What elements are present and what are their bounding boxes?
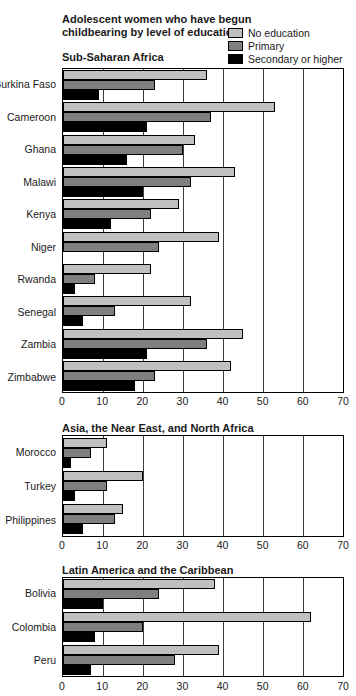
bar-slot (63, 242, 343, 252)
bar-slot (63, 329, 343, 339)
category-label: Morocco (0, 435, 56, 469)
axis-tick-label: 70 (337, 396, 349, 407)
bar-slot (63, 371, 343, 381)
bar-slot (63, 252, 343, 262)
bar-slot (63, 80, 343, 90)
category-label: Peru (0, 644, 56, 677)
bar-slot (63, 655, 343, 665)
bar (63, 209, 151, 219)
bar (63, 219, 111, 229)
bar (63, 599, 103, 609)
bar-slot (63, 612, 343, 622)
axis-tick-label: 40 (217, 681, 229, 692)
category-label: Malawi (0, 166, 56, 199)
bar-group (63, 578, 343, 611)
legend-swatch (228, 41, 243, 51)
category-labels: BoliviaColombiaPeru (0, 577, 56, 677)
x-axis: 010203040506070 (62, 394, 343, 406)
bar (63, 339, 207, 349)
legend-swatch (228, 54, 243, 64)
bar (63, 589, 159, 599)
bar-slot (63, 458, 343, 468)
bar-slot (63, 145, 343, 155)
axis-tick-label: 60 (297, 396, 309, 407)
bar (63, 177, 191, 187)
legend-label: Primary (248, 41, 284, 52)
bar-slot (63, 438, 343, 448)
bar-group (63, 198, 343, 230)
bar-slot (63, 471, 343, 481)
bar-group (63, 101, 343, 133)
bar (63, 316, 83, 326)
bar (63, 329, 243, 339)
x-axis: 010203040506070 (62, 679, 343, 691)
category-label: Ghana (0, 133, 56, 166)
bar-slot (63, 274, 343, 284)
category-label: Colombia (0, 610, 56, 643)
bar-slot (63, 90, 343, 100)
x-axis: 010203040506070 (62, 538, 343, 550)
bar-slot (63, 112, 343, 122)
bar-group (63, 360, 343, 392)
bar (63, 579, 215, 589)
category-label: Kenya (0, 198, 56, 231)
bar (63, 264, 151, 274)
axis-tick-label: 60 (297, 540, 309, 551)
bar (63, 306, 115, 316)
bar (63, 458, 71, 468)
bar-slot (63, 589, 343, 599)
bar-slot (63, 524, 343, 534)
bar (63, 167, 235, 177)
bar-group (63, 69, 343, 101)
axis-tick-label: 10 (96, 681, 108, 692)
bar-slot (63, 167, 343, 177)
bar-slot (63, 284, 343, 294)
bar (63, 232, 219, 242)
bar-rows (63, 436, 343, 536)
bar-rows (63, 69, 343, 392)
bar (63, 361, 231, 371)
bar-rows (63, 578, 343, 676)
axis-tick-label: 0 (59, 540, 65, 551)
axis-tick-label: 30 (177, 396, 189, 407)
category-label: Niger (0, 231, 56, 264)
bar (63, 242, 159, 252)
bar (63, 90, 99, 100)
bar-slot (63, 135, 343, 145)
bar (63, 612, 311, 622)
category-labels: Burkina FasoCameroonGhanaMalawiKenyaNige… (0, 68, 56, 393)
bar (63, 645, 219, 655)
bar (63, 70, 207, 80)
bar (63, 514, 115, 524)
panel-header: Latin America and the Caribbean (62, 564, 233, 576)
category-label: Zimbabwe (0, 361, 56, 394)
bar-slot (63, 504, 343, 514)
bar-slot (63, 632, 343, 642)
bar-group (63, 295, 343, 327)
bar-slot (63, 622, 343, 632)
bar (63, 448, 91, 458)
bar-slot (63, 219, 343, 229)
bar-group (63, 643, 343, 676)
bar-group (63, 611, 343, 644)
axis-tick-label: 60 (297, 681, 309, 692)
axis-tick-label: 10 (96, 540, 108, 551)
axis-tick-label: 40 (217, 540, 229, 551)
axis-tick-label: 0 (59, 681, 65, 692)
bar-group (63, 230, 343, 262)
bar-slot (63, 122, 343, 132)
axis-tick-label: 10 (96, 396, 108, 407)
bar-slot (63, 599, 343, 609)
bar-slot (63, 361, 343, 371)
bar-group (63, 134, 343, 166)
bar (63, 155, 127, 165)
plot-area (62, 435, 344, 537)
bar-slot (63, 481, 343, 491)
axis-tick-label: 40 (217, 396, 229, 407)
axis-tick-label: 30 (177, 681, 189, 692)
axis-tick-label: 20 (136, 681, 148, 692)
figure: Adolescent women who have begun childbea… (0, 0, 356, 696)
category-label: Senegal (0, 296, 56, 329)
category-label: Bolivia (0, 577, 56, 610)
category-label: Zambia (0, 328, 56, 361)
